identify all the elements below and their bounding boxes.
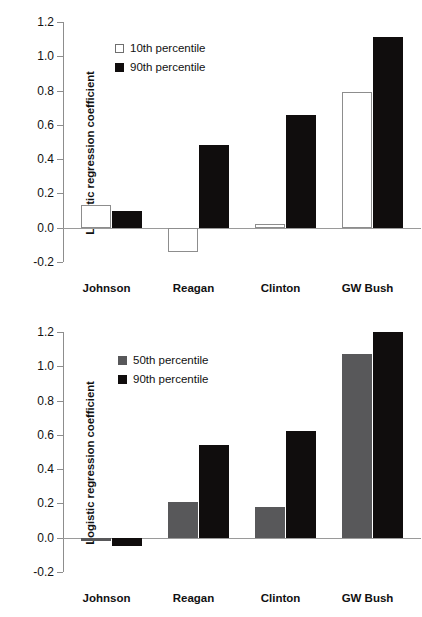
plot-area-bottom: 1.21.00.80.60.40.20.0-0.2 — [63, 332, 411, 572]
y-tick-label-bottom: 0.8 — [37, 394, 54, 408]
y-tick-bottom — [57, 366, 63, 367]
y-tick-label-top: 1.2 — [37, 15, 54, 29]
bar-groups-bottom — [63, 332, 411, 572]
y-tick-label-top: 0.6 — [37, 118, 54, 132]
bar — [81, 538, 111, 541]
bar — [112, 538, 142, 547]
legend-label: 50th percentile — [133, 354, 208, 366]
legend-top: 10th percentile90th percentile — [115, 42, 205, 73]
y-tick-bottom — [57, 538, 63, 539]
bar — [342, 354, 372, 537]
bar — [342, 92, 372, 227]
y-tick-bottom — [57, 503, 63, 504]
legend-item: 50th percentile — [118, 354, 208, 366]
x-axis-label: Johnson — [63, 592, 150, 604]
bar — [199, 145, 229, 227]
y-tick-label-bottom: 0.4 — [37, 462, 54, 476]
x-axis-labels-bottom: JohnsonReaganClintonGW Bush — [63, 592, 411, 604]
legend-bottom: 50th percentile90th percentile — [118, 354, 208, 385]
bar — [373, 37, 403, 227]
bar — [199, 445, 229, 538]
chart-panel-bottom: Logistic regression coefficient 1.21.00.… — [0, 310, 422, 615]
y-tick-bottom — [57, 572, 63, 573]
y-tick-label-top: -0.2 — [33, 255, 54, 269]
y-tick-top — [57, 56, 63, 57]
y-tick-label-bottom: -0.2 — [33, 565, 54, 579]
y-tick-label-bottom: 1.0 — [37, 359, 54, 373]
bar-group — [237, 332, 324, 572]
y-tick-top — [57, 262, 63, 263]
y-tick-label-bottom: 0.6 — [37, 428, 54, 442]
chart-panel-top: Logistic regression coefficient 1.21.00.… — [0, 0, 422, 305]
legend-item: 90th percentile — [115, 61, 205, 73]
y-tick-label-top: 0.2 — [37, 186, 54, 200]
y-tick-label-top: 1.0 — [37, 49, 54, 63]
y-tick-label-bottom: 0.2 — [37, 496, 54, 510]
y-tick-top — [57, 22, 63, 23]
y-tick-label-top: 0.8 — [37, 84, 54, 98]
bar — [81, 205, 111, 227]
y-tick-label-top: 0.4 — [37, 152, 54, 166]
bar — [286, 115, 316, 228]
figure-page: Logistic regression coefficient 1.21.00.… — [0, 0, 422, 617]
y-tick-bottom — [57, 401, 63, 402]
y-tick-top — [57, 91, 63, 92]
x-axis-label: Johnson — [63, 282, 150, 294]
x-axis-label: GW Bush — [324, 282, 411, 294]
x-axis-labels-top: JohnsonReaganClintonGW Bush — [63, 282, 411, 294]
y-tick-bottom — [57, 332, 63, 333]
legend-label: 10th percentile — [130, 42, 205, 54]
bar — [168, 228, 198, 252]
bar — [112, 211, 142, 228]
legend-item: 10th percentile — [115, 42, 205, 54]
legend-label: 90th percentile — [133, 373, 208, 385]
legend-swatch-icon — [115, 63, 124, 72]
bar — [255, 507, 285, 538]
legend-swatch-icon — [118, 375, 127, 384]
bar — [255, 224, 285, 227]
y-tick-top — [57, 159, 63, 160]
y-tick-label-top: 0.0 — [37, 221, 54, 235]
x-axis-label: Reagan — [150, 592, 237, 604]
y-tick-top — [57, 125, 63, 126]
y-tick-bottom — [57, 435, 63, 436]
legend-label: 90th percentile — [130, 61, 205, 73]
bar — [286, 431, 316, 537]
x-axis-label: Clinton — [237, 282, 324, 294]
bar-group — [237, 22, 324, 262]
y-tick-top — [57, 228, 63, 229]
y-tick-label-bottom: 0.0 — [37, 531, 54, 545]
bar — [168, 502, 198, 538]
x-axis-label: Clinton — [237, 592, 324, 604]
x-axis-label: GW Bush — [324, 592, 411, 604]
bar-group — [324, 332, 411, 572]
bar — [373, 332, 403, 538]
bar-group — [324, 22, 411, 262]
y-tick-bottom — [57, 469, 63, 470]
y-tick-label-bottom: 1.2 — [37, 325, 54, 339]
legend-swatch-icon — [115, 44, 124, 53]
y-tick-top — [57, 193, 63, 194]
x-axis-label: Reagan — [150, 282, 237, 294]
legend-item: 90th percentile — [118, 373, 208, 385]
legend-swatch-icon — [118, 356, 127, 365]
